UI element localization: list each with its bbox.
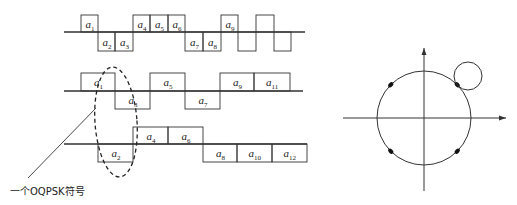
waveform-q-channel-even: a2a4a6a8a10a12 xyxy=(64,127,307,162)
bit-label: a4 xyxy=(138,18,148,33)
diagram-canvas: a1a2a3a4a5a6a7a8a9a1a3a5a7a9a11a2a4a6a8a… xyxy=(0,0,517,205)
bit-label: a5 xyxy=(164,76,174,91)
caption-leader-line xyxy=(28,108,96,178)
leader-line xyxy=(28,108,96,178)
magnify-circle xyxy=(454,62,482,90)
waveform-serial-data-stream: a1a2a3a4a5a6a7a8a9 xyxy=(64,15,305,51)
bit-label: a2 xyxy=(112,147,122,162)
bit-label: a3 xyxy=(120,36,130,51)
symbol-caption: 一个OQPSK符号 xyxy=(10,183,85,198)
bit-label: a11 xyxy=(266,76,279,91)
bit-label: a12 xyxy=(284,147,297,162)
waveform-group: a1a2a3a4a5a6a7a8a9a1a3a5a7a9a11a2a4a6a8a… xyxy=(64,15,307,162)
bit-label: a8 xyxy=(216,147,226,162)
bit-label: a6 xyxy=(182,130,192,145)
bit-label: a2 xyxy=(103,36,113,51)
bit-label: a9 xyxy=(226,18,236,33)
constellation-diagram xyxy=(343,48,506,191)
bit-pulse xyxy=(256,15,274,32)
bit-pulse xyxy=(274,32,291,51)
bit-label: a5 xyxy=(155,18,165,33)
bit-label: a4 xyxy=(147,130,157,145)
bit-label: a8 xyxy=(208,36,218,51)
bit-pulse xyxy=(238,32,256,51)
bit-label: a10 xyxy=(249,147,262,162)
bit-label: a1 xyxy=(94,76,104,91)
waveform-i-channel-odd: a1a3a5a7a9a11 xyxy=(64,73,303,109)
bit-label: a7 xyxy=(190,36,200,51)
bit-label: a7 xyxy=(199,94,209,109)
bit-label: a1 xyxy=(86,18,96,33)
oqpsk-diagram: a1a2a3a4a5a6a7a8a9a1a3a5a7a9a11a2a4a6a8a… xyxy=(0,0,517,205)
bit-label: a6 xyxy=(173,18,183,33)
bit-label: a9 xyxy=(233,76,243,91)
